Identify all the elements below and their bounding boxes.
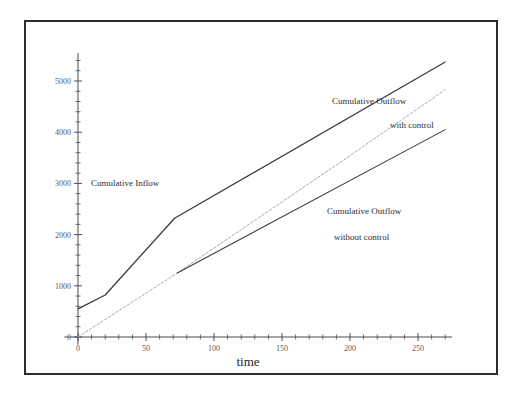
series-annotation-outflow-with-label-2: with control (390, 120, 434, 130)
x-axis-tick-label: 150 (276, 344, 288, 353)
series-annotation-outflow-without-label-1: Cumulative Outflow (327, 206, 402, 216)
figure-root: 010002000300040005000050100150200250 Cum… (0, 0, 524, 399)
y-axis-tick-label: 2000 (55, 231, 71, 240)
x-axis-tick-label: 50 (142, 344, 150, 353)
y-axis-tick-label: 4000 (55, 128, 71, 137)
cumulative-flow-line-chart: 010002000300040005000050100150200250 Cum… (0, 0, 524, 399)
y-axis-tick-label: 0 (67, 333, 71, 342)
series-annotation-outflow-with-label-1: Cumulative Outflow (332, 96, 407, 106)
y-axis-tick-label: 5000 (55, 77, 71, 86)
annotation-group: Cumulative InflowCumulative Outflowwith … (91, 96, 434, 242)
series-annotation-outflow-without-label-2: without control (334, 232, 390, 242)
x-axis-tick-label: 0 (76, 344, 80, 353)
series-line (177, 130, 445, 273)
x-axis-tick-label: 200 (344, 344, 356, 353)
x-axis-tick-label: 250 (412, 344, 424, 353)
x-axis-tick-label: 100 (208, 344, 220, 353)
series-annotation-inflow-label: Cumulative Inflow (91, 178, 160, 188)
x-axis-title: time (236, 354, 259, 369)
y-axis-tick-label: 1000 (55, 282, 71, 291)
y-axis-tick-label: 3000 (55, 179, 71, 188)
